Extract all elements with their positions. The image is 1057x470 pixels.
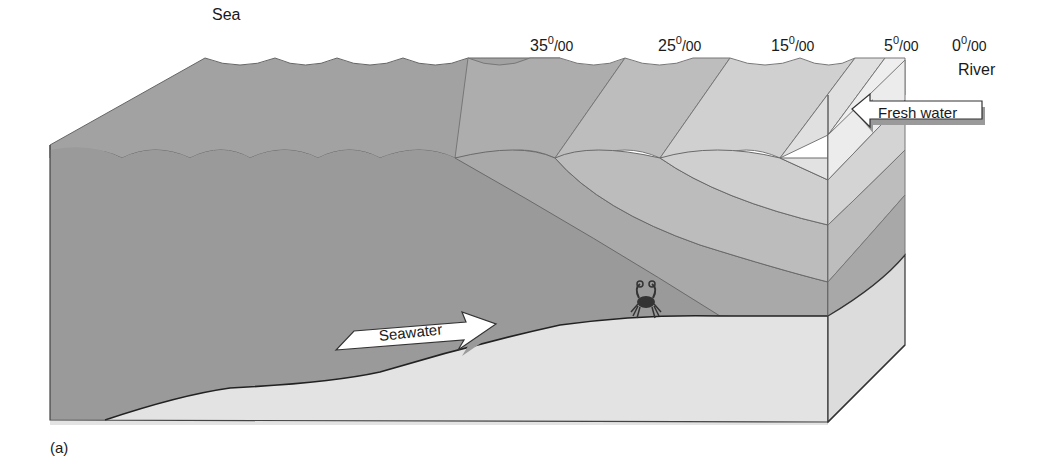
estuary-diagram: Sea 350/00 250/00 150/00 50/00 00/00 Riv… — [0, 0, 1057, 470]
salinity-label-15: 150/00 — [771, 38, 814, 54]
sea-label: Sea — [212, 7, 240, 23]
fresh-water-label: Fresh water — [878, 105, 957, 120]
salinity-label-25: 250/00 — [658, 38, 701, 54]
salinity-label-0: 00/00 — [952, 38, 987, 54]
figure-caption: (a) — [50, 440, 68, 455]
river-label: River — [958, 62, 995, 78]
salinity-label-35: 350/00 — [530, 38, 573, 54]
estuary-block-diagram — [0, 0, 1057, 470]
salinity-label-5: 50/00 — [884, 38, 919, 54]
